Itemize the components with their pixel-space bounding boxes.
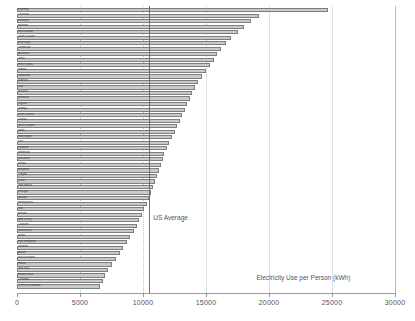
chart-root: WyomingLouisianaKentuckyAlabamaNorth Dak…: [0, 0, 415, 321]
x-tick-label: 10000: [133, 299, 153, 306]
tick-mark-30000: [395, 293, 396, 297]
x-tick-label: 5000: [72, 299, 88, 306]
tick-mark-20000: [269, 293, 270, 297]
reference-line-layer: [17, 6, 396, 293]
tick-mark-15000: [206, 293, 207, 297]
x-tick-label: 15000: [196, 299, 216, 306]
plot-right-border: [395, 6, 396, 294]
tick-mark-25000: [332, 293, 333, 297]
x-tick-label: 25000: [322, 299, 342, 306]
us-average-line: [149, 6, 150, 294]
tick-mark-0: [17, 293, 18, 297]
x-tick-label: 0: [15, 299, 19, 306]
tick-mark-5000: [80, 293, 81, 297]
tick-mark-10000: [143, 293, 144, 297]
x-tick-label: 20000: [259, 299, 279, 306]
x-tick-label: 30000: [385, 299, 405, 306]
us-average-label: US Average: [153, 214, 188, 221]
x-axis-title: Electricity Use per Person (kWh): [256, 274, 350, 281]
